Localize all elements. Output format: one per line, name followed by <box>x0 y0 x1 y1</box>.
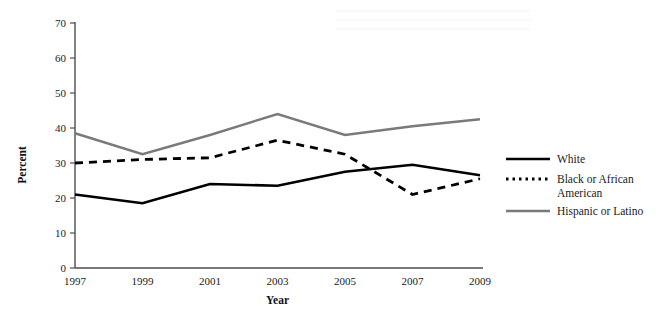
y-tick-label: 40 <box>55 122 67 134</box>
x-tick-label: 2005 <box>334 275 357 287</box>
y-tick-label: 60 <box>55 52 67 64</box>
legend-label: Hispanic or Latino <box>557 205 643 218</box>
chart-legend: WhiteBlack or AfricanAmericanHispanic or… <box>506 153 643 218</box>
x-tick-label: 2003 <box>267 275 290 287</box>
y-tick-label: 0 <box>61 262 67 274</box>
y-tick-label: 70 <box>55 17 67 29</box>
x-tick-label: 1997 <box>64 275 87 287</box>
data-series-group <box>75 114 480 203</box>
line-chart: 010203040506070 199719992001200320052007… <box>0 0 656 320</box>
x-axis-ticks: 1997199920012003200520072009 <box>64 275 492 287</box>
x-tick-label: 2001 <box>199 275 221 287</box>
legend-label: American <box>557 187 603 199</box>
x-axis-title: Year <box>266 294 289 306</box>
series-line-hispanic-or-latino <box>75 114 480 154</box>
y-tick-label: 30 <box>55 157 67 169</box>
y-tick-label: 20 <box>55 192 67 204</box>
y-axis-title: Percent <box>16 146 28 184</box>
x-tick-label: 2009 <box>469 275 492 287</box>
y-tick-label: 10 <box>55 227 67 239</box>
legend-label: White <box>557 153 585 165</box>
legend-label: Black or African <box>557 173 634 185</box>
y-tick-label: 50 <box>55 87 67 99</box>
y-axis-ticks: 010203040506070 <box>55 17 75 274</box>
x-tick-label: 2007 <box>402 275 425 287</box>
chart-canvas: 010203040506070 199719992001200320052007… <box>0 0 656 320</box>
x-tick-label: 1999 <box>132 275 155 287</box>
series-line-white <box>75 165 480 204</box>
